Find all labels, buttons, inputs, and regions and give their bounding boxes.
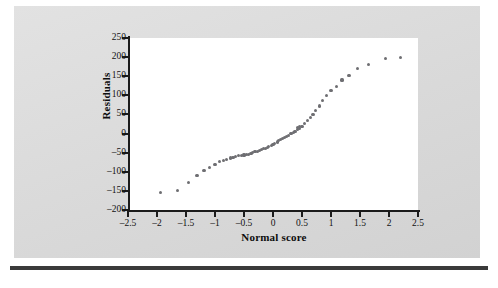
y-tick-label: –200: [92, 205, 126, 215]
x-tick: [127, 210, 129, 217]
data-point: [340, 78, 343, 81]
data-point: [187, 181, 190, 184]
x-tick-label: 0.5: [286, 218, 318, 228]
x-tick-label: –0.5: [228, 218, 260, 228]
x-tick-label: –1: [199, 218, 231, 228]
x-tick: [359, 210, 361, 217]
x-tick-label: –2: [141, 218, 173, 228]
x-axis-title: Normal score: [128, 231, 420, 243]
x-tick: [388, 210, 390, 217]
data-point: [311, 113, 314, 116]
plot-area: [130, 38, 418, 210]
data-point: [306, 119, 309, 122]
data-point: [325, 94, 328, 97]
normal-probability-plot: 250200150100500–50–100–150–200 –2.5–2–1.…: [116, 18, 428, 230]
figure-page: 250200150100500–50–100–150–200 –2.5–2–1.…: [0, 0, 498, 288]
x-axis-line: [128, 210, 420, 212]
data-point: [202, 169, 205, 172]
data-point: [314, 109, 317, 112]
page-bottom-rule: [10, 266, 488, 270]
x-tick: [214, 210, 216, 217]
data-point: [218, 160, 221, 163]
data-point: [399, 56, 402, 59]
y-axis-line: [128, 36, 130, 212]
x-tick: [185, 210, 187, 217]
data-point: [329, 89, 332, 92]
data-point: [303, 122, 306, 125]
x-tick: [156, 210, 158, 217]
y-axis-title: Residuals: [100, 48, 112, 144]
x-tick-label: 2.5: [402, 218, 434, 228]
data-point: [309, 116, 312, 119]
data-point: [159, 191, 162, 194]
x-tick: [417, 210, 419, 217]
x-tick: [301, 210, 303, 217]
y-tick-label: –150: [92, 186, 126, 196]
data-point: [384, 57, 387, 60]
data-point: [335, 85, 338, 88]
x-tick-label: 1: [315, 218, 347, 228]
x-tick: [330, 210, 332, 217]
x-tick: [243, 210, 245, 217]
y-tick-label: –100: [92, 167, 126, 177]
data-point: [318, 104, 321, 107]
data-point: [356, 67, 359, 70]
data-point: [347, 74, 350, 77]
x-tick-label: 2: [373, 218, 405, 228]
x-tick-label: –1.5: [170, 218, 202, 228]
data-point: [208, 166, 211, 169]
data-point: [195, 174, 198, 177]
data-point: [225, 158, 228, 161]
x-tick-label: 1.5: [344, 218, 376, 228]
data-point: [213, 163, 216, 166]
x-tick: [272, 210, 274, 217]
x-tick-label: 0: [257, 218, 289, 228]
data-point: [367, 63, 370, 66]
data-point: [321, 99, 324, 102]
data-point: [176, 189, 179, 192]
x-tick-label: –2.5: [112, 218, 144, 228]
y-tick-label: 250: [92, 33, 126, 43]
y-tick-label: –50: [92, 148, 126, 158]
